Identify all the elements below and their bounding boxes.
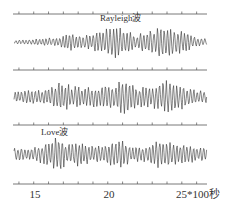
x-tick-label-15: 15 — [30, 189, 41, 200]
x-tick-label-20: 20 — [104, 189, 115, 200]
x-tick-label-25-unit: 25*100秒 — [176, 189, 220, 200]
waveform-trace-3 — [14, 138, 207, 169]
waveform-traces — [14, 28, 207, 169]
love-wave-label: Love波 — [41, 128, 69, 137]
seismogram-plot — [0, 0, 229, 204]
rayleigh-wave-label: Rayleigh波 — [100, 14, 142, 23]
waveform-trace-2 — [14, 80, 207, 113]
waveform-trace-1 — [14, 28, 207, 58]
